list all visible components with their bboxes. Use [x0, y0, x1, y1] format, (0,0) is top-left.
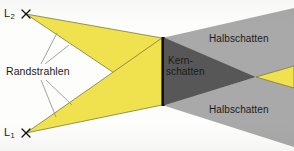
label-light-source-l1: L1 — [4, 126, 15, 138]
label-light-source-l2: L2 — [4, 7, 15, 19]
shadow-diagram: L2 L1 Randstrahlen Kern-schatten Halbsch… — [0, 0, 294, 151]
label-edge-rays: Randstrahlen — [6, 66, 70, 78]
source-marker-l1 — [22, 129, 30, 137]
label-umbra-line2: schatten — [166, 66, 205, 77]
source-marker-l2 — [22, 10, 30, 18]
subscript-2: 2 — [11, 12, 15, 21]
label-penumbra-bottom: Halbschatten — [209, 104, 269, 115]
label-penumbra-top: Halbschatten — [209, 33, 269, 44]
obstacle-bar — [162, 37, 165, 106]
label-umbra-line1: Kern- — [168, 55, 193, 66]
label-umbra: Kern-schatten — [168, 55, 205, 77]
subscript-1: 1 — [11, 131, 15, 140]
